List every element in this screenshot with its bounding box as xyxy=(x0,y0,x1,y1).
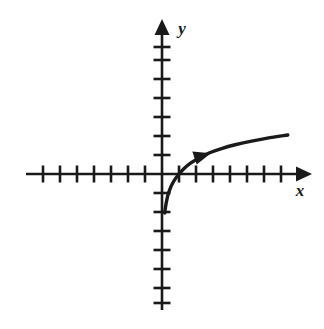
graph-figure: x xyxy=(0,0,324,329)
coordinate-plane-svg: x xyxy=(0,0,324,329)
curve-direction-arrowhead xyxy=(192,152,211,165)
x-axis-arrowhead xyxy=(296,167,312,182)
y-axis-group: y xyxy=(154,19,187,310)
x-axis-label: x xyxy=(295,181,305,200)
y-axis-arrowhead xyxy=(155,19,170,35)
y-axis-label: y xyxy=(176,19,186,38)
